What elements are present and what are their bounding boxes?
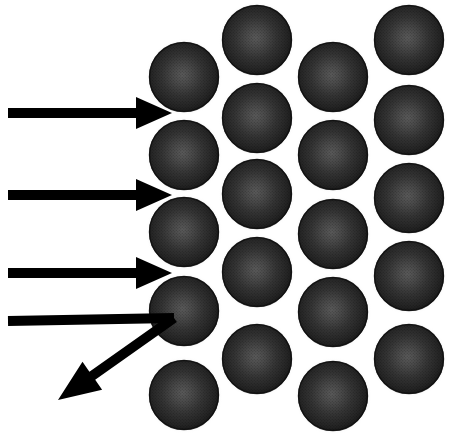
incident-ray-4: [8, 313, 174, 326]
scattering-diagram: Alpha particle scattering by a close-pac…: [0, 0, 458, 437]
incident-beam-group: [0, 0, 458, 437]
scattered-ray: [58, 314, 177, 400]
incident-ray-1: [8, 97, 172, 129]
incident-ray-3: [8, 257, 172, 289]
incident-ray-2: [8, 179, 172, 211]
